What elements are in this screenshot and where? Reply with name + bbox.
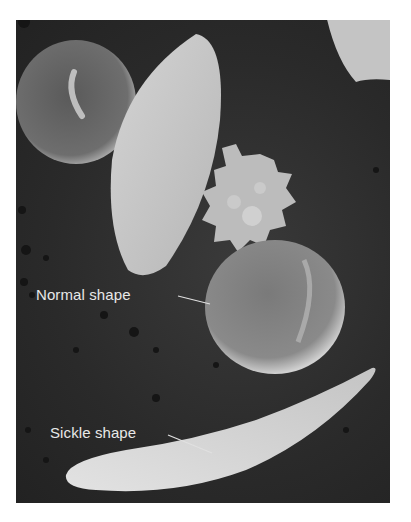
normal-shape-pointer [178,296,210,304]
echinocyte-cell [202,144,296,252]
micrograph-photo: Normal shape Sickle shape [16,20,390,503]
label-normal-shape: Normal shape [36,287,131,302]
normal-cell [205,240,345,374]
label-sickle-shape: Sickle shape [50,425,136,440]
partial-cell-top-right [326,20,390,82]
